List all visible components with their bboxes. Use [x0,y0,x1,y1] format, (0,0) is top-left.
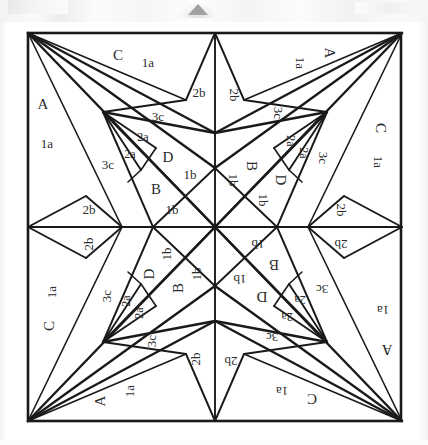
piece-label-br-1a-rt: 1a [377,303,390,318]
piece-label-br-1a-bot: 1a [276,384,289,399]
piece-label-bl-B: B [170,283,186,293]
piece-label-br-A: A [381,342,392,358]
piece-label-bl-C: C [41,321,57,331]
piece-label-bl-2b-lt: 2b [81,238,96,251]
piece-label-bl-A: A [92,395,108,406]
piece-label-ul-A: A [38,96,49,112]
piece-label-ur-1a-rt: 1a [371,156,386,169]
piece-label-ul-B: B [151,181,161,197]
piece-label-ur-3c-low: 3c [316,152,331,165]
piece-label-ul-1a-left: 1a [41,136,54,151]
piece-label-ul-3c-low: 3c [102,157,115,172]
piece-label-bl-1a-lt: 1a [44,286,59,299]
piece-label-br-D: D [256,289,267,305]
piece-label-ur-3c-up: 3c [271,107,286,120]
piece-label-ul-2b-top: 2b [193,85,206,100]
piece-label-bl-2a-in: 2a [119,295,133,307]
piece-label-ur-1b-D: 1b [256,194,271,207]
piece-label-br-C: C [307,391,317,407]
piece-label-ur-2a-out: 2a [284,135,298,147]
piece-label-br-2b-rt: 2b [335,237,348,252]
piece-label-bl-2a-out: 2a [132,307,146,319]
piece-label-br-1b-D: 1b [234,272,247,287]
piece-label-ur-2a-in: 2a [297,147,311,159]
piece-label-ur-2b-top: 2b [227,89,242,102]
piece-label-br-3c-up: 3c [316,282,329,297]
piece-label-ur-D: D [273,175,289,186]
piece-label-ul-1a-top: 1a [142,55,155,70]
piece-label-br-1b-B: 1b [252,237,265,252]
piece-label-br-2a-out: 2a [281,310,293,324]
piece-label-br-B: B [269,257,279,273]
piece-label-ul-2a-out: 2a [137,130,149,144]
piece-label-br-2b-bot: 2b [225,354,238,369]
piece-label-bl-2b-bot: 2b [188,353,203,366]
piece-label-ur-1b-B: 1b [226,174,241,187]
star-pattern-svg: C1a2bA1a3c2a2aD1b3cB1b2bA1a2bC1a3c2a2aD1… [0,0,428,445]
piece-label-ul-2a-in: 2a [124,147,136,161]
piece-label-bl-3c-dn: 3c [144,335,159,348]
piece-label-bl-1b-D: 1b [159,248,174,261]
piece-label-ul-C: C [113,47,123,63]
piece-label-ur-A: A [322,48,338,59]
piece-label-br-3c-dn: 3c [266,330,279,345]
piece-label-ur-2b-rt: 2b [334,204,349,217]
piece-label-bl-1b-B: 1b [189,268,204,281]
piece-label-ul-1b-D: 1b [184,167,197,182]
piece-label-br-2a-in: 2a [294,293,306,307]
piece-label-ul-D: D [163,149,174,165]
piece-label-ul-1b-B: 1b [166,202,179,217]
piece-label-ur-C: C [373,123,389,133]
piece-label-bl-3c-up: 3c [99,290,114,303]
piece-label-ur-B: B [244,161,260,171]
piece-label-bl-D: D [141,268,157,279]
piece-label-bl-1a-bot: 1a [122,385,137,398]
piece-label-ur-1a-top: 1a [293,57,308,70]
piece-label-ul-3c-up: 3c [152,109,165,124]
piece-label-ul-2b-left: 2b [83,202,96,217]
pattern-figure: C1a2bA1a3c2a2aD1b3cB1b2bA1a2bC1a3c2a2aD1… [0,0,428,445]
